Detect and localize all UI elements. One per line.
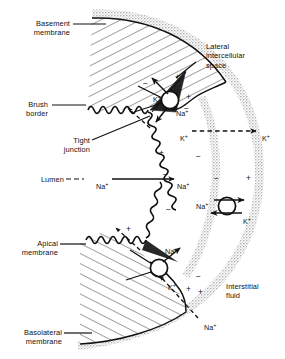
- label-lateral-intercellular-space: Lateralintercellularspace: [206, 42, 284, 70]
- label-apical-membrane: Apicalmembrane: [8, 239, 58, 258]
- ion-label-k-right-pump: K+: [243, 217, 251, 226]
- charge-sign-negative-11: −: [196, 272, 201, 280]
- ion-label-na-lumen-right: Na+: [177, 182, 189, 191]
- label-basolateral-membrane: Basolateralmembrane: [0, 328, 62, 347]
- ion-label-na-interstitial: Na+: [204, 323, 216, 332]
- leader-tight-junction: [92, 116, 150, 140]
- ion-label-k-upper-pump: K+: [153, 95, 161, 104]
- label-brush-border: Brushborder: [0, 100, 48, 119]
- charge-sign-positive-9: +: [126, 225, 131, 233]
- charge-sign-negative-0: −: [143, 79, 148, 87]
- charge-sign-positive-2: +: [186, 93, 191, 101]
- charge-sign-negative-10: −: [166, 205, 171, 213]
- charge-sign-positive-4: +: [159, 149, 164, 157]
- brush-border-microvilli: [88, 107, 176, 211]
- figure-root: Basementmembrane Brushborder Tightjuncti…: [0, 0, 285, 359]
- charge-sign-negative-6: −: [163, 170, 168, 178]
- label-tight-junction: Tightjunction: [34, 136, 90, 155]
- ion-label-k-right-dashed: K+: [262, 134, 270, 143]
- charge-sign-positive-12: +: [186, 285, 191, 293]
- label-lumen: Lumen: [22, 175, 64, 184]
- label-basement-membrane: Basementmembrane: [8, 19, 70, 38]
- ion-label-na-lower-pump: Na+: [165, 247, 177, 256]
- charge-sign-positive-8: +: [246, 174, 251, 182]
- charge-sign-negative-3: −: [184, 104, 189, 112]
- charge-sign-positive-13: +: [198, 288, 203, 296]
- ion-label-k-lower-pump: K+: [168, 283, 176, 292]
- charge-sign-negative-5: −: [196, 152, 201, 160]
- label-interstitial-fluid: Interstitialfluid: [226, 282, 284, 301]
- ion-label-na-lumen-left: Na+: [96, 182, 108, 191]
- charge-sign-negative-7: −: [214, 174, 219, 182]
- ion-label-k-left-dashed: K+: [180, 134, 188, 143]
- charge-sign-positive-1: +: [175, 73, 180, 81]
- ion-label-na-right-pump: Na+: [196, 202, 208, 211]
